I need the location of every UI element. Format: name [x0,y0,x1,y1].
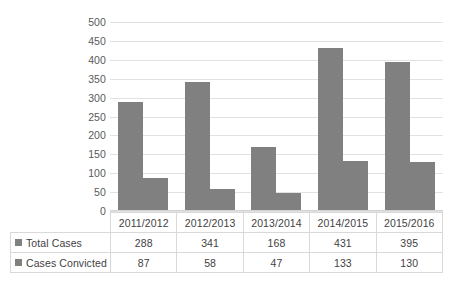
bar-total-cases [251,147,276,211]
bar-chart-with-data-table: 500450400350300250200150100500 2011/2012… [0,0,460,282]
category-header-cell: 2011/2012 [111,213,177,233]
bar-series-container [110,22,443,211]
table-value-cell: 168 [243,233,309,253]
legend-swatch-icon [15,239,22,246]
bar-total-cases [185,82,210,211]
table-corner-cell [11,213,111,233]
y-tick-label: 200 [60,130,106,141]
y-tick-label: 400 [60,55,106,66]
table-value-cell: 58 [177,253,243,273]
bar-total-cases [318,48,343,211]
table-value-cell: 133 [310,253,376,273]
bar-cases-convicted [276,193,301,211]
legend-label: Cases Convicted [26,257,107,269]
table-value-cell: 130 [376,253,442,273]
bar-group [177,22,244,211]
x-axis-line [110,210,443,211]
bar-group [243,22,310,211]
category-header-cell: 2015/2016 [376,213,442,233]
bar-total-cases [118,102,143,211]
category-header-cell: 2014/2015 [310,213,376,233]
legend-swatch-icon [15,259,22,266]
bar-cases-convicted [343,161,368,211]
y-tick-label: 250 [60,112,106,123]
y-tick-label: 500 [60,17,106,28]
plot-area [110,22,443,211]
y-tick-label: 100 [60,168,106,179]
bar-group [110,22,177,211]
table-value-cell: 47 [243,253,309,273]
bar-group [376,22,443,211]
legend-entry: Total Cases [11,233,111,253]
bar-total-cases [385,62,410,211]
table-value-cell: 395 [376,233,442,253]
table-value-cell: 431 [310,233,376,253]
bar-cases-convicted [143,178,168,211]
table-row: Total Cases288341168431395 [11,233,443,253]
category-header-cell: 2013/2014 [243,213,309,233]
table-value-cell: 341 [177,233,243,253]
y-tick-label: 300 [60,93,106,104]
y-axis: 500450400350300250200150100500 [60,12,106,222]
table-row: Cases Convicted875847133130 [11,253,443,273]
y-tick-label: 450 [60,36,106,47]
legend-entry: Cases Convicted [11,253,111,273]
table-value-cell: 87 [111,253,177,273]
table-header-row: 2011/20122012/20132013/20142014/20152015… [11,213,443,233]
bar-group [310,22,377,211]
bar-cases-convicted [210,189,235,211]
y-tick-label: 50 [60,187,106,198]
legend-label: Total Cases [26,237,82,249]
category-header-cell: 2012/2013 [177,213,243,233]
y-tick-label: 150 [60,149,106,160]
data-table: 2011/20122012/20132013/20142014/20152015… [10,212,443,273]
table-value-cell: 288 [111,233,177,253]
bar-cases-convicted [410,162,435,211]
y-tick-label: 350 [60,74,106,85]
